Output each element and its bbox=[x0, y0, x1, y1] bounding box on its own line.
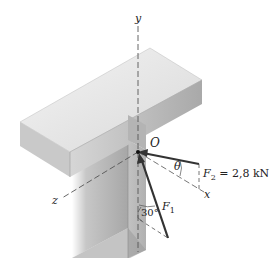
origin-point bbox=[136, 150, 140, 154]
origin-label: O bbox=[150, 137, 160, 149]
z-axis-label: z bbox=[52, 195, 58, 206]
theta-label: θ bbox=[174, 161, 181, 172]
f2-label: F2 = 2,8 kN bbox=[203, 168, 269, 182]
x-axis-label: x bbox=[204, 189, 210, 200]
t-beam-diagram bbox=[0, 0, 270, 263]
y-axis-label: y bbox=[135, 13, 141, 24]
f1-subscript: 1 bbox=[170, 206, 175, 215]
force-f2 bbox=[138, 149, 199, 164]
f2-value: = 2,8 kN bbox=[219, 167, 269, 180]
f1-symbol: F bbox=[162, 200, 170, 213]
f2-subscript: 2 bbox=[211, 173, 216, 182]
f1-label: F1 bbox=[162, 201, 175, 215]
alpha-label: 30° bbox=[141, 208, 159, 218]
f2-symbol: F bbox=[203, 167, 211, 180]
